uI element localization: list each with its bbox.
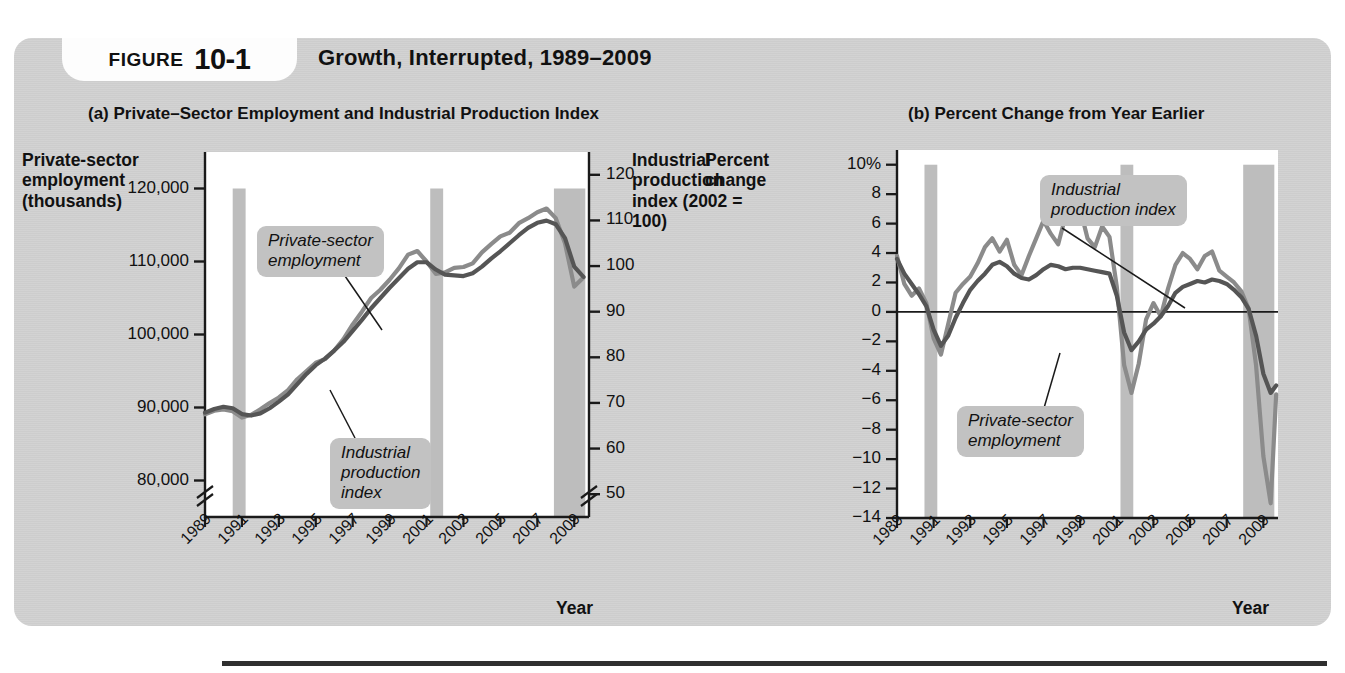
panel-a-callout-industrial-production: Industrial production index	[330, 438, 431, 509]
figure-title: Growth, Interrupted, 1989–2009	[318, 45, 652, 71]
panel-a-right-tick-label-4: 80	[606, 346, 625, 366]
panel-a-x-axis-title: Year	[556, 598, 593, 619]
panel-b-series-industrial-production	[897, 182, 1276, 503]
panel-b-left-tick-label-5: 0	[872, 301, 881, 321]
panel-a-right-tick-label-6: 60	[606, 438, 625, 458]
panel-a-recession-band-3	[554, 189, 585, 518]
panel-a-right-tick-label-0: 120	[606, 164, 634, 184]
panel-b-callout-employment: Private-sector employment	[957, 406, 1084, 457]
panel-b-left-tick-label-1: 8	[872, 183, 881, 203]
panel-a-left-tick-label-3: 90,000	[137, 397, 189, 417]
panel-b-left-tick-label-11: −12	[852, 478, 881, 498]
panel-a-recession-band-1	[233, 189, 246, 518]
panel-a-title: (a) Private–Sector Employment and Indust…	[88, 104, 599, 124]
panel-b-left-tick-label-12: −14	[852, 507, 881, 527]
panel-a-right-tick-label-7: 50	[606, 483, 625, 503]
figure-number-tab: FIGURE 10-1	[62, 38, 297, 81]
chart-canvas	[0, 0, 1345, 673]
panel-a-left-tick-label-4: 80,000	[137, 470, 189, 490]
panel-b-x-axis-title: Year	[1232, 598, 1269, 619]
panel-b-left-tick-label-7: −4	[862, 360, 881, 380]
panel-b-left-tick-label-10: −10	[852, 448, 881, 468]
panel-b-left-tick-label-8: −6	[862, 389, 881, 409]
panel-b-left-tick-label-4: 2	[872, 271, 881, 291]
panel-a-leader-industrial-production	[330, 390, 355, 438]
panel-a-right-tick-label-5: 70	[606, 392, 625, 412]
panel-b-callout-industrial-production: Industrial production index	[1040, 175, 1187, 226]
panel-a-left-tick-label-1: 110,000	[129, 251, 189, 271]
panel-b-left-axis-title: Percent change	[705, 150, 815, 191]
panel-a-recession-band-2	[430, 189, 443, 518]
figure-number: 10-1	[194, 43, 250, 76]
panel-b-leader-employment	[1044, 353, 1060, 408]
panel-a-left-tick-label-0: 120,000	[128, 178, 189, 198]
panel-b-left-tick-label-9: −8	[862, 419, 881, 439]
panel-b-left-tick-label-0: 10%	[847, 154, 881, 174]
panel-a-right-tick-label-3: 90	[606, 301, 625, 321]
panel-b-left-tick-label-2: 6	[872, 213, 881, 233]
panel-b-left-tick-label-3: 4	[872, 242, 881, 262]
panel-a-right-tick-label-2: 100	[606, 255, 634, 275]
panel-a-right-tick-label-1: 110	[606, 209, 633, 229]
figure-label: FIGURE	[109, 49, 184, 71]
panel-b-title: (b) Percent Change from Year Earlier	[908, 104, 1204, 124]
panel-a-callout-employment: Private-sector employment	[257, 226, 384, 277]
panel-b-series-private-sector-employment	[897, 259, 1276, 393]
panel-b-left-tick-label-6: −2	[862, 330, 881, 350]
panel-a-left-tick-label-2: 100,000	[128, 324, 189, 344]
